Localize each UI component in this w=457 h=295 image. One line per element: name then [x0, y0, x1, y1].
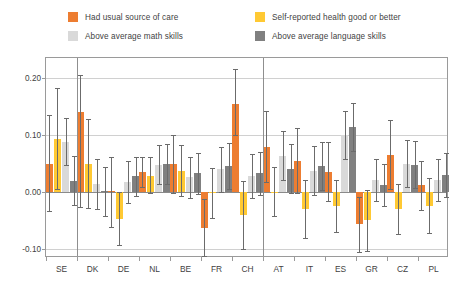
error-cap-CH-s1-high	[241, 181, 246, 182]
error-cap-AT-s3-low	[289, 193, 294, 194]
error-bar-NL-s2	[159, 145, 160, 184]
error-bar-NL-s3	[167, 144, 168, 184]
error-cap-DE-s0-low	[109, 227, 114, 228]
error-cap-SE-s1-low	[55, 189, 60, 190]
error-cap-PL-s3-high	[444, 153, 449, 154]
x-axis-label-FR: FR	[211, 264, 222, 274]
x-tick-mark	[232, 256, 233, 261]
error-bar-CH-s0	[235, 69, 236, 135]
error-cap-BE-s0-low	[171, 193, 176, 194]
error-bar-FR-s1	[212, 168, 213, 218]
legend-item-math: Above average math skills	[68, 31, 183, 41]
error-cap-DK-s3-low	[103, 216, 108, 217]
x-axis-label-CZ: CZ	[397, 264, 408, 274]
error-cap-IT-s2-high	[312, 146, 317, 147]
error-cap-GR-s1-high	[365, 190, 370, 191]
x-axis-label-BE: BE	[180, 264, 191, 274]
error-bar-DK-s3	[105, 167, 106, 216]
error-cap-BE-s2-high	[188, 157, 193, 158]
legend-swatch-care	[68, 12, 78, 22]
error-cap-FR-s1-low	[210, 218, 215, 219]
error-bar-DK-s0	[80, 75, 81, 207]
error-cap-DE-s1-low	[117, 245, 122, 246]
error-cap-CZ-s0-high	[388, 120, 393, 121]
error-cap-DE-s2-high	[126, 161, 131, 162]
error-bar-CH-s3	[260, 152, 261, 195]
error-bar-DE-s0	[111, 157, 112, 227]
gridline	[46, 249, 447, 250]
error-cap-FR-s1-high	[210, 168, 215, 169]
error-cap-ES-s2-high	[343, 111, 348, 112]
error-cap-DE-s3-high	[134, 157, 139, 158]
error-cap-ES-s3-high	[351, 103, 356, 104]
error-cap-PL-s1-low	[427, 233, 432, 234]
x-tick-mark	[356, 256, 357, 261]
legend-item-care: Had usual source of care	[68, 12, 178, 22]
error-cap-AT-s3-high	[289, 144, 294, 145]
plot-area: 0.200.100.00-0.10SEDKDENLBEFRCHATITESGRC…	[45, 57, 448, 257]
error-bar-FR-s2	[221, 147, 222, 192]
x-tick-mark	[170, 256, 171, 261]
chart-page: Had usual source of careSelf-reported he…	[0, 0, 457, 295]
legend-swatch-language	[255, 31, 265, 41]
error-bar-CZ-s1	[398, 184, 399, 234]
error-bar-FR-s0	[204, 199, 205, 256]
error-cap-AT-s0-low	[264, 182, 269, 183]
error-cap-DE-s2-low	[126, 203, 131, 204]
error-cap-BE-s2-low	[188, 198, 193, 199]
error-cap-GR-s0-low	[357, 252, 362, 253]
y-tick-label: -0.10	[22, 245, 41, 254]
error-cap-IT-s3-high	[320, 142, 325, 143]
error-bar-CZ-s3	[415, 141, 416, 188]
error-cap-ES-s2-low	[343, 159, 348, 160]
error-bar-SE-s2	[66, 118, 67, 165]
error-cap-GR-s3-low	[382, 206, 387, 207]
error-bar-PL-s2	[438, 159, 439, 201]
error-bar-IT-s0	[297, 128, 298, 193]
error-cap-CH-s2-high	[250, 154, 255, 155]
error-cap-DE-s0-high	[109, 157, 114, 158]
x-axis-label-DE: DE	[118, 264, 130, 274]
error-bar-ES-s1	[336, 180, 337, 232]
legend-label-language: Above average language skills	[272, 32, 386, 41]
error-bar-PL-s0	[421, 161, 422, 210]
error-cap-BE-s1-high	[179, 145, 184, 146]
error-cap-DK-s1-low	[86, 208, 91, 209]
error-cap-SE-s0-high	[47, 115, 52, 116]
chart-legend: Had usual source of careSelf-reported he…	[0, 8, 457, 50]
error-cap-NL-s1-high	[148, 157, 153, 158]
error-cap-FR-s2-high	[219, 147, 224, 148]
error-cap-CH-s0-high	[233, 69, 238, 70]
legend-label-care: Had usual source of care	[85, 13, 178, 22]
error-cap-CH-s2-low	[250, 198, 255, 199]
y-tick-label: 0.00	[25, 188, 41, 197]
error-cap-ES-s3-low	[351, 151, 356, 152]
x-tick-mark	[294, 256, 295, 261]
gridline	[46, 135, 447, 136]
error-bar-BE-s2	[190, 157, 191, 198]
error-cap-PL-s0-low	[419, 210, 424, 211]
error-cap-CZ-s3-high	[413, 141, 418, 142]
error-cap-GR-s1-low	[365, 251, 370, 252]
error-cap-IT-s1-low	[303, 238, 308, 239]
error-bar-AT-s3	[291, 144, 292, 193]
error-bar-IT-s3	[322, 142, 323, 190]
x-axis-label-ES: ES	[335, 264, 346, 274]
error-cap-DK-s2-low	[95, 209, 100, 210]
error-cap-ES-s0-high	[326, 142, 331, 143]
gridline	[46, 78, 447, 79]
x-tick-mark	[201, 256, 202, 261]
error-cap-AT-s0-high	[264, 111, 269, 112]
error-bar-BE-s1	[181, 145, 182, 196]
error-bar-ES-s3	[353, 103, 354, 152]
error-bar-AT-s1	[274, 167, 275, 216]
error-cap-SE-s2-low	[64, 165, 69, 166]
x-tick-mark	[387, 256, 388, 261]
error-cap-SE-s1-high	[55, 88, 60, 89]
error-bar-AT-s0	[266, 111, 267, 182]
error-cap-ES-s0-low	[326, 201, 331, 202]
group-separator-after-SE	[77, 58, 78, 256]
error-cap-CH-s0-low	[233, 135, 238, 136]
error-cap-DE-s3-low	[134, 196, 139, 197]
error-cap-AT-s2-low	[281, 180, 286, 181]
